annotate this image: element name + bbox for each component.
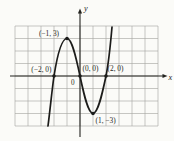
- x-axis-label: x: [168, 73, 173, 82]
- point-label: (−1, 3): [39, 29, 60, 38]
- point-label: (−2, 0): [31, 65, 52, 74]
- cubic-function-plot: x y 0 (−2, 0)(−1, 3)(0, 0)(1, −3)(2, 0): [0, 0, 174, 141]
- y-axis-arrow-icon: [78, 9, 82, 14]
- x-axis-arrow-icon: [163, 74, 168, 78]
- data-point: [65, 37, 69, 41]
- data-point: [52, 74, 56, 78]
- function-graph-figure: x y 0 (−2, 0)(−1, 3)(0, 0)(1, −3)(2, 0): [0, 0, 174, 141]
- data-point: [91, 112, 95, 116]
- origin-label: 0: [71, 79, 75, 87]
- y-axis-label: y: [83, 4, 88, 13]
- point-label: (1, −3): [96, 116, 117, 125]
- point-label: (0, 0): [83, 64, 100, 73]
- data-point: [78, 74, 82, 78]
- point-label: (2, 0): [108, 64, 125, 73]
- data-point: [104, 74, 108, 78]
